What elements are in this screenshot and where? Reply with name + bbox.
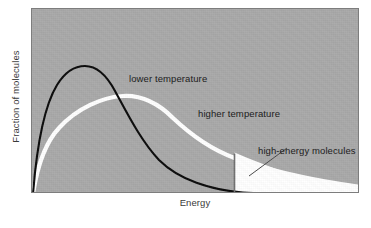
lower-temperature-curve (33, 66, 359, 193)
distribution-curves (31, 8, 359, 193)
y-axis-label: Fraction of molecules (0, 0, 30, 193)
annotation-high-energy-molecules: high-energy molecules (258, 145, 356, 156)
x-axis-label: Energy (31, 197, 359, 208)
y-axis-label-text: Fraction of molecules (10, 50, 21, 142)
plot-area: lower temperature higher temperature hig… (31, 8, 359, 193)
maxwell-boltzmann-figure: Fraction of molecules lower temperature … (0, 0, 371, 228)
annotation-higher-temperature: higher temperature (198, 108, 280, 119)
annotation-lower-temperature: lower temperature (129, 73, 207, 84)
